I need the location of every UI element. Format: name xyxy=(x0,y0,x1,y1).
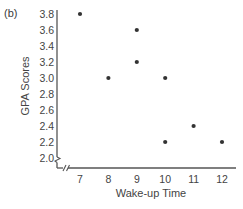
y-tick-label: 2.0 xyxy=(39,152,54,164)
x-tick-label: 12 xyxy=(216,173,228,185)
y-tick-label: 2.2 xyxy=(39,136,54,148)
y-tick-label: 2.8 xyxy=(39,88,54,100)
y-tick-label: 3.8 xyxy=(39,8,54,20)
x-tick-label: 11 xyxy=(188,173,199,185)
x-axis-title: Wake-up Time xyxy=(116,187,187,199)
x-tick-label: 9 xyxy=(134,173,140,185)
data-point xyxy=(78,12,82,16)
x-tick-label: 7 xyxy=(77,173,83,185)
y-tick-label: 3.2 xyxy=(39,56,54,68)
data-point xyxy=(135,60,139,64)
y-tick-label: 3.4 xyxy=(39,40,54,52)
y-tick-label: 3.6 xyxy=(39,24,54,36)
x-tick-label: 8 xyxy=(105,173,111,185)
data-point xyxy=(163,76,167,80)
y-axis-title: GPA Scores xyxy=(19,56,31,116)
y-tick-label: 2.4 xyxy=(39,120,54,132)
y-tick-label: 2.6 xyxy=(39,104,54,116)
x-tick-label: 10 xyxy=(159,173,171,185)
data-point xyxy=(220,140,224,144)
y-axis-break-icon xyxy=(55,157,60,163)
data-point xyxy=(106,76,110,80)
scatter-chart: 2.02.22.42.62.83.03.23.43.63.8789101112W… xyxy=(0,0,243,209)
y-tick-label: 3.0 xyxy=(39,72,54,84)
data-point xyxy=(192,124,196,128)
data-point xyxy=(135,28,139,32)
data-point xyxy=(163,140,167,144)
